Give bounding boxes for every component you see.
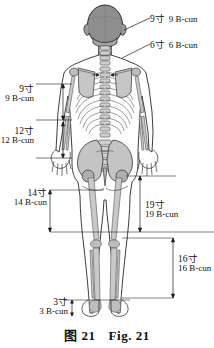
- label-thigh-14: 14寸 14 B-cun: [0, 188, 47, 208]
- figure-caption: 图 21Fig. 21: [0, 325, 214, 344]
- figure-caption-cn: 图 21: [64, 328, 95, 343]
- label-lower-leg-16: 16寸 16 B-cun: [178, 254, 211, 274]
- label-neck-6-cn: 6寸: [150, 40, 165, 50]
- label-forearm-12: 12寸 12 B-cun: [0, 126, 34, 146]
- figure-container: 9寸 9 B-cun 6寸 6 B-cun 9寸 9 B-cun 12寸 12 …: [0, 0, 214, 348]
- label-trochanter-19-en: 19 B-cun: [145, 210, 178, 220]
- label-head-9-en: 9 B-cun: [169, 14, 198, 24]
- anatomical-illustration: [0, 0, 214, 348]
- figure-caption-en: Fig. 21: [109, 328, 150, 343]
- label-neck-6-en: 6 B-cun: [169, 40, 198, 50]
- label-ankle-3-en: 3 B-cun: [0, 307, 68, 317]
- label-head-9-cn: 9寸: [150, 14, 165, 24]
- label-forearm-12-en: 12 B-cun: [0, 136, 34, 146]
- label-head-9: 9寸 9 B-cun: [150, 8, 198, 25]
- label-upper-arm-9-en: 9 B-cun: [0, 94, 34, 104]
- label-neck-6: 6寸 6 B-cun: [150, 34, 198, 51]
- label-thigh-14-en: 14 B-cun: [0, 198, 47, 208]
- label-upper-arm-9: 9寸 9 B-cun: [0, 84, 34, 104]
- label-lower-leg-16-en: 16 B-cun: [178, 264, 211, 274]
- label-trochanter-19: 19寸 19 B-cun: [145, 200, 178, 220]
- label-ankle-3: 3寸 3 B-cun: [0, 297, 68, 317]
